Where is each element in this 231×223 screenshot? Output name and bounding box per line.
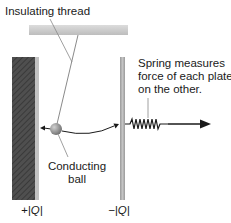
left-plate-strip: [35, 57, 39, 200]
ball-path-right: [62, 126, 114, 134]
ceiling-support: [29, 25, 128, 35]
left-plate: [12, 57, 35, 200]
right-plate-charge: −|Q|: [108, 204, 130, 217]
arrowhead-right-icon: [114, 124, 120, 129]
insulating-thread-label: Insulating thread: [5, 5, 90, 18]
left-plate-charge: +|Q|: [21, 204, 43, 217]
insulating-thread: [57, 35, 78, 124]
conducting-ball: [50, 123, 62, 135]
spring: [125, 119, 168, 129]
ball-label-leader: [58, 134, 68, 157]
spring-label-line-3: on the other.: [138, 83, 202, 96]
right-plate: [120, 57, 125, 200]
ball-label-line-1: Conducting: [45, 160, 109, 173]
force-arrowhead-icon: [200, 120, 211, 129]
ball-path-left: [44, 128, 51, 129]
ball-label-line-2: ball: [45, 173, 109, 186]
capacitor-diagram: [0, 0, 231, 223]
arrowhead-left-icon: [40, 126, 45, 131]
spring-label-line-2: force of each plate: [138, 70, 231, 83]
spring-label-line-1: Spring measures: [138, 57, 225, 70]
